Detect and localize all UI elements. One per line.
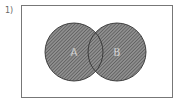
set-b-label: B <box>114 47 121 58</box>
venn-diagram: A B <box>0 0 178 104</box>
set-a-label: A <box>71 47 78 58</box>
